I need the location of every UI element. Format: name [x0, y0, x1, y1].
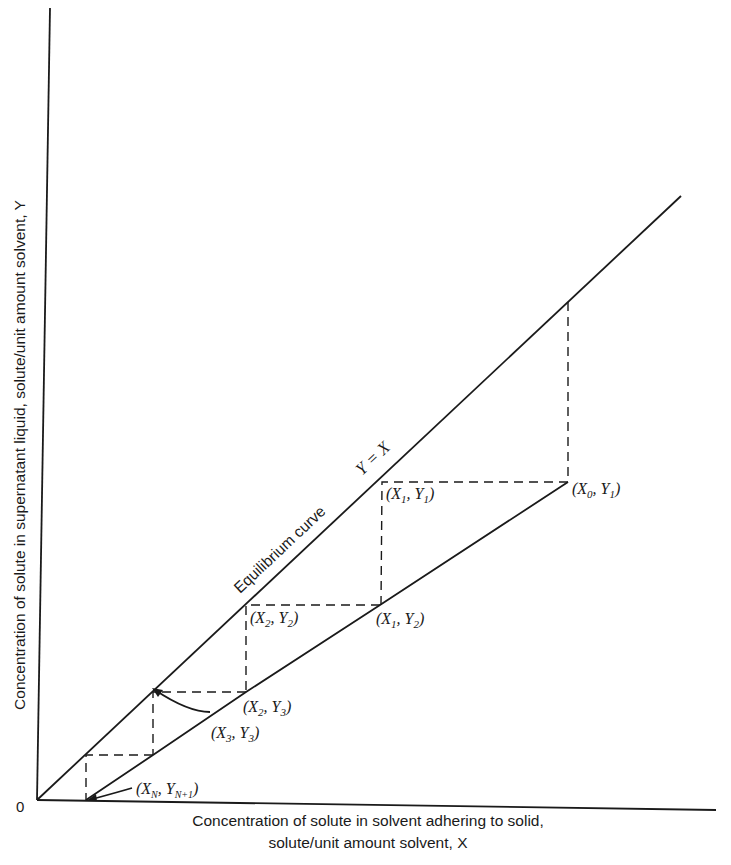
- point-label-x1-y1: (X1, Y1): [386, 485, 434, 505]
- equilibrium-curve-label: Equilibrium curve: [230, 502, 328, 596]
- y-axis: [37, 8, 50, 800]
- diagram-canvas: Concentration of solute in supernatant l…: [0, 0, 731, 865]
- arrowhead-icon: [86, 794, 97, 801]
- point-label-x2-y2: (X2, Y2): [250, 609, 298, 629]
- x-axis-label-line2: solute/unit amount solvent, X: [268, 834, 468, 851]
- equilibrium-line: [37, 196, 681, 800]
- y-axis-label: Concentration of solute in supernatant l…: [11, 200, 28, 710]
- x-axis-label-line1: Concentration of solute in solvent adher…: [192, 812, 544, 829]
- x-axis: [37, 800, 716, 810]
- equilibrium-equation-label: Y = X: [352, 437, 394, 479]
- operating-line: [86, 482, 568, 800]
- point-label-x2-y3: (X2, Y3): [243, 698, 291, 718]
- origin-label: 0: [16, 798, 24, 815]
- point-label-x3-y3: (X3, Y3): [211, 724, 259, 744]
- leader-arrow-x3y3: [155, 690, 210, 712]
- point-label-xn-yn1: (XN, YN+1): [136, 780, 198, 800]
- point-label-x0-y1: (X0, Y1): [572, 480, 620, 500]
- point-label-x1-y2: (X1, Y2): [376, 610, 424, 630]
